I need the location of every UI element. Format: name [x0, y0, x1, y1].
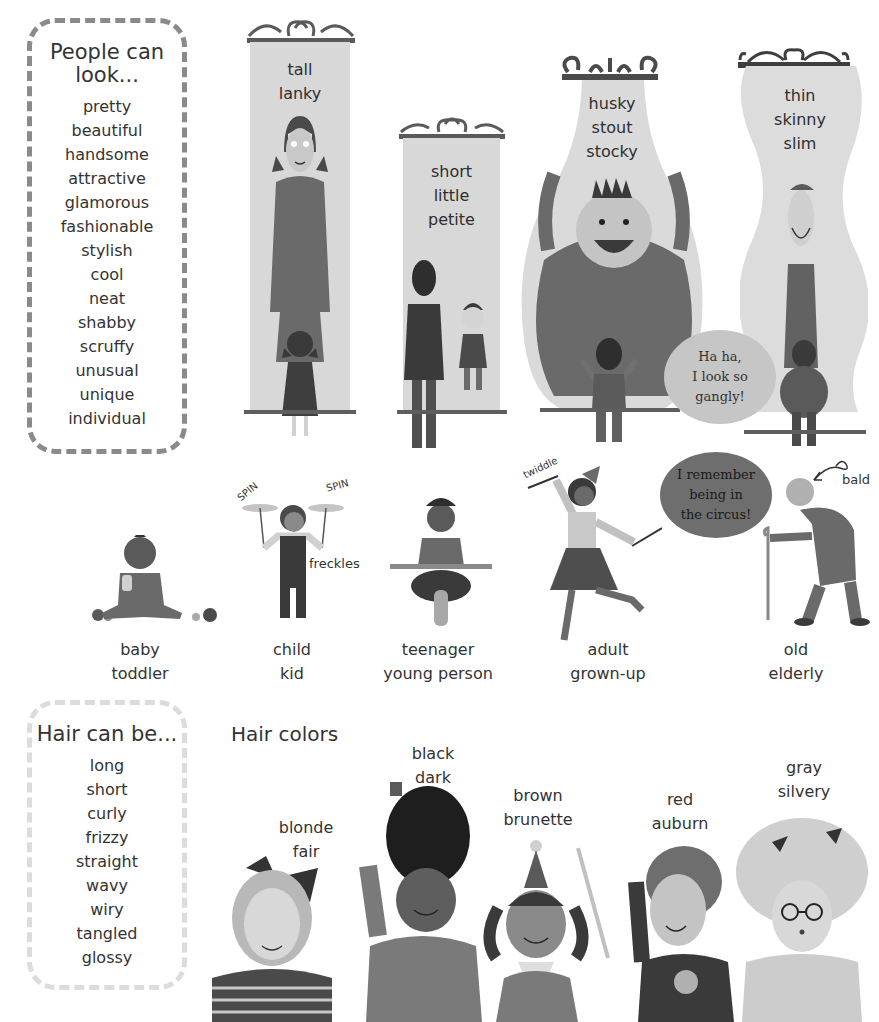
speech-bubble-gangly: Ha ha, I look so gangly! — [664, 330, 776, 424]
bubble-line: the circus! — [677, 505, 755, 525]
freckles-label: freckles — [309, 556, 360, 571]
mirror-stand — [540, 408, 680, 412]
small-girl-figure-icon — [278, 328, 322, 438]
mirror-word: stout — [570, 116, 654, 140]
mirror-label: short little petite — [403, 160, 500, 232]
mirror-word: husky — [570, 92, 654, 116]
hair-word: curly — [32, 802, 182, 826]
hair-can-be-box: Hair can be... long short curly frizzy s… — [27, 700, 187, 990]
hair-caption-gray: gray silvery — [766, 756, 842, 804]
teenager-figure-icon — [386, 490, 496, 630]
bald-arrow-icon — [810, 458, 854, 486]
hair-word: frizzy — [32, 826, 182, 850]
mirror-label: tall lanky — [250, 58, 350, 106]
boy-arms-up-figure-icon — [578, 330, 640, 446]
age-word: toddler — [92, 662, 188, 686]
black-hair-girl-figure-icon — [358, 776, 486, 1022]
looks-word: individual — [32, 407, 182, 431]
age-caption-teenager: teenager young person — [376, 638, 500, 686]
bubble-line: Ha ha, — [692, 347, 748, 367]
looks-word: pretty — [32, 95, 182, 119]
hair-word: short — [32, 778, 182, 802]
hair-color-word: brown — [496, 784, 580, 808]
tall-man-figure-icon — [402, 256, 446, 452]
bubble-line: being in — [677, 485, 755, 505]
hair-box-title: Hair can be... — [32, 723, 182, 746]
hair-word: glossy — [32, 946, 182, 970]
looks-word: neat — [32, 287, 182, 311]
mirror-word: lanky — [250, 82, 350, 106]
looks-box-title: People can look... — [32, 41, 182, 87]
mirror-label: thin skinny slim — [760, 84, 840, 156]
hair-caption-red: red auburn — [642, 788, 718, 836]
mirror-stand — [244, 410, 356, 414]
age-word: teenager — [376, 638, 500, 662]
hair-word: wiry — [32, 898, 182, 922]
looks-word: stylish — [32, 239, 182, 263]
mirror-stand — [744, 430, 866, 434]
hair-colors-title: Hair colors — [231, 722, 338, 746]
mirror-word: slim — [760, 132, 840, 156]
mirror-ornament-icon — [558, 52, 662, 82]
age-word: young person — [376, 662, 500, 686]
mirror-word: thin — [760, 84, 840, 108]
child-figure-icon — [238, 478, 348, 628]
age-word: old — [748, 638, 844, 662]
hair-word: straight — [32, 850, 182, 874]
bubble-line: gangly! — [692, 387, 748, 407]
mirror-stand — [397, 410, 507, 414]
age-word: grown-up — [560, 662, 656, 686]
mirror-word: short — [403, 160, 500, 184]
age-caption-child: child kid — [244, 638, 340, 686]
speech-bubble-circus: I remember being in the circus! — [660, 452, 772, 538]
baby-figure-icon — [84, 535, 220, 625]
looks-title-line2: look... — [32, 64, 182, 87]
age-caption-adult: adult grown-up — [560, 638, 656, 686]
people-can-look-box: People can look... pretty beautiful hand… — [27, 18, 187, 454]
age-caption-old: old elderly — [748, 638, 844, 686]
hair-color-word: red — [642, 788, 718, 812]
age-word: kid — [244, 662, 340, 686]
tall-reflection-figure-icon — [262, 112, 338, 362]
age-word: adult — [560, 638, 656, 662]
age-word: baby — [92, 638, 188, 662]
mirror-word: skinny — [760, 108, 840, 132]
looks-word: cool — [32, 263, 182, 287]
mirror-ornament-icon — [397, 110, 507, 140]
mirror-ornament-icon — [245, 14, 357, 44]
small-reflection-figure-icon — [455, 296, 491, 396]
looks-word: beautiful — [32, 119, 182, 143]
age-word: elderly — [748, 662, 844, 686]
mirror-word: tall — [250, 58, 350, 82]
looks-title-line1: People can — [32, 41, 182, 64]
mirror-label: husky stout stocky — [570, 92, 654, 164]
looks-word: glamorous — [32, 191, 182, 215]
looks-word: handsome — [32, 143, 182, 167]
blonde-girl-figure-icon — [206, 848, 338, 1022]
looks-word: fashionable — [32, 215, 182, 239]
hair-color-word: black — [400, 742, 466, 766]
age-word: child — [244, 638, 340, 662]
old-man-figure-icon — [760, 470, 870, 630]
hair-color-word: silvery — [766, 780, 842, 804]
mirror-word: stocky — [570, 140, 654, 164]
hair-word: wavy — [32, 874, 182, 898]
hair-caption-brown: brown brunette — [496, 784, 580, 832]
hair-color-word: blonde — [268, 816, 344, 840]
hair-word: long — [32, 754, 182, 778]
looks-word: unique — [32, 383, 182, 407]
hair-color-word: auburn — [642, 812, 718, 836]
age-caption-baby: baby toddler — [92, 638, 188, 686]
hair-word: tangled — [32, 922, 182, 946]
hair-word-list: long short curly frizzy straight wavy wi… — [32, 754, 182, 970]
brown-hair-girl-figure-icon — [478, 838, 628, 1022]
looks-word-list: pretty beautiful handsome attractive gla… — [32, 95, 182, 431]
looks-word: scruffy — [32, 335, 182, 359]
gray-hair-woman-figure-icon — [732, 812, 872, 1022]
adult-figure-icon — [522, 460, 662, 650]
looks-word: unusual — [32, 359, 182, 383]
hair-color-word: gray — [766, 756, 842, 780]
looks-word: attractive — [32, 167, 182, 191]
hair-color-word: brunette — [496, 808, 580, 832]
red-hair-boy-figure-icon — [622, 842, 742, 1022]
